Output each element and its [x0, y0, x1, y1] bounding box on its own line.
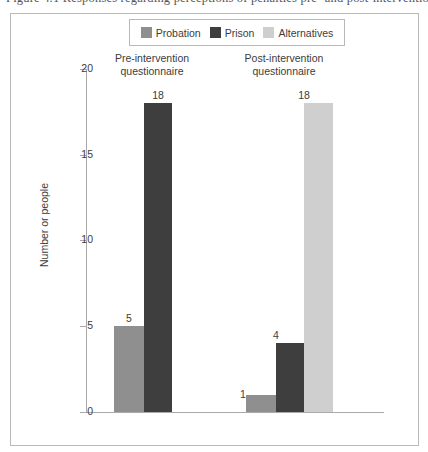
bar-value-post-probation: 1 — [226, 388, 260, 400]
bar-value-post-alternatives: 18 — [287, 89, 321, 101]
bar-value-post-prison: 4 — [259, 329, 293, 341]
y-tick-label-10: 10 — [51, 233, 93, 245]
bar-group-post — [246, 69, 338, 412]
bar-post-alternatives — [304, 103, 333, 412]
bar-pre-prison — [144, 103, 172, 412]
x-axis-baseline — [86, 412, 384, 413]
bar-value-pre-probation: 5 — [112, 312, 146, 324]
y-tick-label-15: 15 — [51, 148, 93, 160]
y-tick-label-0: 0 — [51, 405, 93, 417]
y-tick-label-5: 5 — [51, 319, 93, 331]
bar-pre-probation — [114, 326, 144, 412]
y-tick-label-20: 20 — [51, 62, 93, 74]
figure-caption-cutoff: Figure 4.1 Responses regarding perceptio… — [0, 0, 428, 5]
bar-group-pre — [114, 69, 174, 412]
plot-area: Number or people 0 5 10 15 20 Pre-interv… — [11, 14, 418, 445]
bar-post-prison — [276, 343, 304, 412]
figure-frame: Probation Prison Alternatives Number or … — [10, 13, 419, 446]
bar-value-pre-prison: 18 — [141, 89, 175, 101]
y-axis-title: Number or people — [38, 165, 50, 285]
